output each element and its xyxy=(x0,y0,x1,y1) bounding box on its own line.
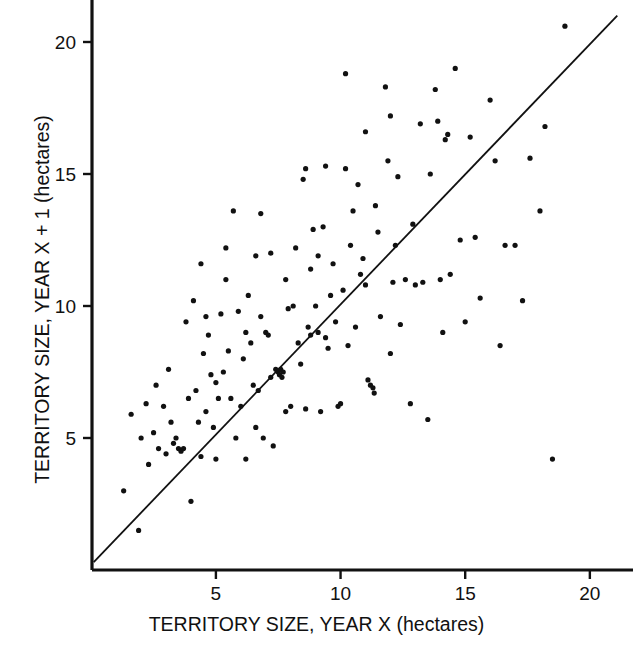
data-point xyxy=(443,137,448,142)
identity-line-group xyxy=(94,16,618,562)
data-point xyxy=(345,343,350,348)
data-point xyxy=(363,282,368,287)
data-point xyxy=(258,211,263,216)
data-point xyxy=(203,409,208,414)
data-point xyxy=(438,277,443,282)
data-point xyxy=(537,208,542,213)
data-point xyxy=(236,309,241,314)
data-point xyxy=(198,454,203,459)
data-point xyxy=(253,425,258,430)
data-point xyxy=(188,499,193,504)
data-point xyxy=(542,124,547,129)
x-tick-label: 5 xyxy=(211,583,222,604)
data-point xyxy=(181,446,186,451)
data-point xyxy=(268,251,273,256)
data-point xyxy=(139,435,144,440)
data-point xyxy=(445,132,450,137)
data-point xyxy=(393,243,398,248)
data-point xyxy=(321,224,326,229)
data-point xyxy=(231,208,236,213)
data-point xyxy=(206,332,211,337)
y-axis-title: TERRITORY SIZE, YEAR X + 1 (hectares) xyxy=(31,0,54,600)
data-point xyxy=(355,182,360,187)
data-point xyxy=(281,369,286,374)
data-point xyxy=(328,293,333,298)
data-point xyxy=(306,325,311,330)
data-point xyxy=(146,462,151,467)
data-point xyxy=(316,253,321,258)
data-point xyxy=(498,343,503,348)
data-point xyxy=(550,457,555,462)
data-point xyxy=(243,330,248,335)
data-point xyxy=(308,332,313,337)
data-point xyxy=(156,446,161,451)
data-point xyxy=(153,383,158,388)
data-point xyxy=(433,87,438,92)
data-point xyxy=(325,346,330,351)
data-point xyxy=(311,227,316,232)
plot-canvas: 51015205101520 xyxy=(0,0,633,652)
data-point xyxy=(520,298,525,303)
data-point xyxy=(203,314,208,319)
data-point xyxy=(378,314,383,319)
data-point xyxy=(196,420,201,425)
data-point xyxy=(211,425,216,430)
data-point xyxy=(458,237,463,242)
data-point xyxy=(403,277,408,282)
data-point xyxy=(453,66,458,71)
identity-reference-line xyxy=(94,16,618,562)
y-tick-label: 15 xyxy=(55,164,76,185)
data-point xyxy=(298,361,303,366)
data-point xyxy=(333,319,338,324)
data-point xyxy=(473,235,478,240)
data-point xyxy=(213,457,218,462)
data-point xyxy=(241,356,246,361)
data-point xyxy=(358,272,363,277)
data-point xyxy=(201,351,206,356)
data-point xyxy=(268,375,273,380)
data-point xyxy=(191,298,196,303)
data-point xyxy=(208,372,213,377)
data-point xyxy=(246,293,251,298)
axis-lines xyxy=(92,0,633,570)
data-point xyxy=(562,24,567,29)
data-point xyxy=(223,245,228,250)
data-point xyxy=(121,488,126,493)
data-point xyxy=(388,351,393,356)
data-point xyxy=(168,420,173,425)
data-point xyxy=(388,113,393,118)
y-tick-label: 5 xyxy=(65,428,76,449)
data-point xyxy=(512,243,517,248)
data-point xyxy=(213,380,218,385)
data-point xyxy=(493,158,498,163)
data-point xyxy=(468,134,473,139)
data-point xyxy=(365,377,370,382)
data-point xyxy=(385,158,390,163)
data-point xyxy=(350,208,355,213)
data-point xyxy=(151,430,156,435)
data-point xyxy=(383,84,388,89)
data-point xyxy=(288,404,293,409)
data-point xyxy=(283,277,288,282)
x-tick-label: 10 xyxy=(330,583,351,604)
data-point xyxy=(338,401,343,406)
data-point xyxy=(373,203,378,208)
data-point xyxy=(308,266,313,271)
data-point xyxy=(283,409,288,414)
data-point xyxy=(323,163,328,168)
data-point xyxy=(171,441,176,446)
data-point xyxy=(353,325,358,330)
data-point xyxy=(256,388,261,393)
data-point xyxy=(323,335,328,340)
data-point xyxy=(228,396,233,401)
data-point xyxy=(253,253,258,258)
data-point xyxy=(193,388,198,393)
data-point xyxy=(360,256,365,261)
data-point xyxy=(296,340,301,345)
data-point xyxy=(398,322,403,327)
caption-fragment xyxy=(14,641,414,652)
y-tick-label: 20 xyxy=(55,32,76,53)
data-point xyxy=(527,156,532,161)
data-point xyxy=(226,348,231,353)
data-point xyxy=(248,340,253,345)
